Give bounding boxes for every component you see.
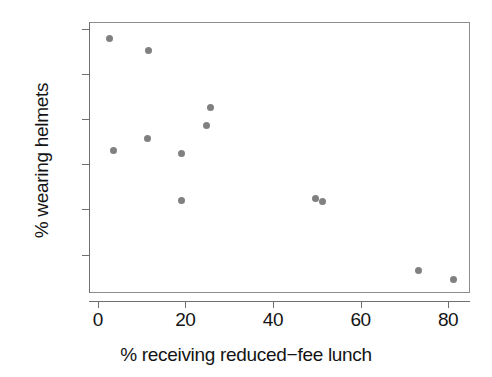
x-axis-tick (361, 301, 362, 308)
y-axis-tick (82, 255, 89, 256)
y-axis-tick (82, 29, 89, 30)
data-point (178, 197, 185, 204)
data-point (106, 35, 113, 42)
x-axis-tick-label: 20 (155, 310, 215, 330)
x-axis-tick-label: 0 (68, 310, 128, 330)
x-axis-tick (273, 301, 274, 308)
x-axis-tick (185, 301, 186, 308)
x-axis-tick-label: 60 (331, 310, 391, 330)
x-axis-tick-label: 40 (243, 310, 303, 330)
y-axis-tick (82, 74, 89, 75)
y-axis-tick (82, 164, 89, 165)
x-axis-line (89, 301, 470, 302)
x-axis-title: % receiving reduced−fee lunch (0, 344, 492, 365)
data-point (415, 267, 422, 274)
data-point (312, 195, 319, 202)
data-point (203, 122, 210, 129)
y-axis-tick (82, 209, 89, 210)
y-axis-line (89, 22, 90, 293)
x-axis-tick-label: 80 (418, 310, 478, 330)
x-axis-tick (98, 301, 99, 308)
x-axis-tick (448, 301, 449, 308)
scatter-plot-figure: 102030405060 020406080 % receiving reduc… (0, 0, 492, 377)
data-point (144, 135, 151, 142)
y-axis-title: % wearing helmets (31, 21, 52, 301)
data-point (110, 147, 117, 154)
data-point (319, 198, 326, 205)
data-point (178, 150, 185, 157)
data-point (145, 47, 152, 54)
data-point (450, 276, 457, 283)
data-points-layer (90, 23, 469, 292)
y-axis-tick (82, 119, 89, 120)
data-point (207, 104, 214, 111)
plot-area-frame (89, 22, 470, 293)
